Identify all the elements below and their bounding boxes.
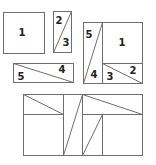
assembled-square: 5 1 4 3 2 (84, 23, 143, 84)
assembled-label-4: 4 (91, 69, 98, 80)
label-2: 2 (56, 15, 63, 26)
label-5: 5 (18, 71, 25, 82)
piece-tall-rect-2-3: 2 3 (54, 12, 72, 53)
assembled-label-2: 2 (130, 65, 137, 76)
assembled-label-3: 3 (107, 71, 114, 82)
piece-square-1: 1 (4, 13, 45, 54)
label-4: 4 (59, 64, 66, 75)
piece-wide-rect-5-4: 5 4 (14, 64, 74, 83)
label-1: 1 (19, 27, 26, 38)
label-3: 3 (63, 37, 70, 48)
dissection-diagram: 1 2 3 5 4 5 1 4 3 2 (0, 0, 156, 165)
assembled-label-5: 5 (86, 29, 93, 40)
rearranged-rectangle (24, 95, 143, 156)
assembled-label-1: 1 (119, 37, 126, 48)
